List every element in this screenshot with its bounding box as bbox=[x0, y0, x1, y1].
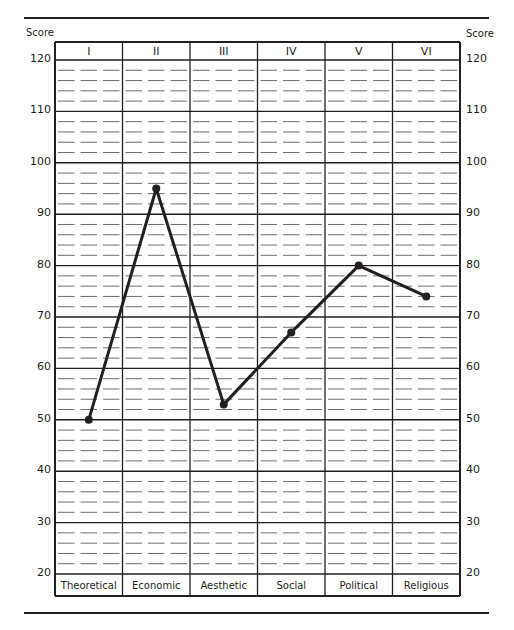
data-point-marker bbox=[422, 292, 430, 300]
data-point-marker bbox=[355, 262, 363, 270]
column-header: IV bbox=[286, 45, 297, 58]
category-label: Social bbox=[276, 580, 306, 591]
category-label: Theoretical bbox=[60, 580, 117, 591]
column-header: III bbox=[219, 45, 229, 58]
column-header: I bbox=[87, 45, 90, 58]
column-header: V bbox=[355, 45, 363, 58]
data-point-marker bbox=[287, 328, 295, 336]
data-point-marker bbox=[85, 416, 93, 424]
column-header: II bbox=[153, 45, 160, 58]
category-label: Aesthetic bbox=[200, 580, 247, 591]
column-header: VI bbox=[421, 45, 432, 58]
category-label: Political bbox=[340, 580, 378, 591]
line-chart: IIIIIIIVVVITheoreticalEconomicAestheticS… bbox=[0, 0, 514, 630]
data-point-marker bbox=[220, 400, 228, 408]
category-label: Religious bbox=[404, 580, 449, 591]
data-point-marker bbox=[152, 185, 160, 193]
category-label: Economic bbox=[132, 580, 180, 591]
